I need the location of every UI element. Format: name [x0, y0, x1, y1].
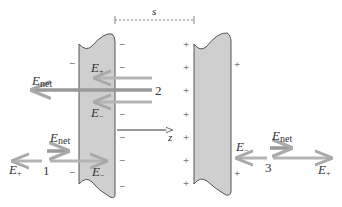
region-2-label: 2	[155, 83, 162, 98]
svg-text:+: +	[183, 177, 189, 189]
svg-text:+: +	[183, 84, 189, 96]
e-minus-label-region3: E−	[235, 139, 249, 155]
region-2: 2 E+ E− Enet	[31, 60, 162, 121]
separation-bracket: s	[115, 5, 194, 24]
svg-text:+: +	[234, 58, 240, 70]
e-net-label-region2: Enet	[31, 73, 52, 89]
svg-text:−: −	[119, 108, 125, 120]
e-plus-label-region1: E+	[8, 162, 22, 178]
svg-text:+: +	[183, 154, 189, 166]
svg-text:−: −	[119, 180, 125, 192]
svg-text:+: +	[183, 131, 189, 143]
e-net-label-region3: Enet	[271, 128, 292, 144]
svg-text:+: +	[183, 38, 189, 50]
separation-label: s	[152, 5, 156, 17]
svg-text:−: −	[119, 154, 125, 166]
z-axis: z	[117, 130, 173, 143]
svg-text:−: −	[119, 38, 125, 50]
svg-text:−: −	[119, 61, 125, 73]
e-net-label-region1: Enet	[49, 130, 70, 146]
svg-text:+: +	[183, 108, 189, 120]
svg-text:+: +	[183, 61, 189, 73]
capacitor-field-diagram: s − − − − − − − − − + + + + + + + + + 2 …	[0, 0, 342, 207]
region-3: 3 E− E+ Enet	[235, 128, 331, 178]
svg-text:−: −	[69, 166, 75, 178]
e-plus-label-region3: E+	[317, 162, 331, 178]
z-axis-label: z	[167, 131, 173, 143]
positive-plate	[194, 33, 231, 195]
region-3-label: 3	[265, 160, 272, 175]
svg-text:−: −	[69, 57, 75, 69]
svg-text:+: +	[234, 167, 240, 179]
svg-text:−: −	[119, 131, 125, 143]
region-1-label: 1	[43, 163, 50, 178]
